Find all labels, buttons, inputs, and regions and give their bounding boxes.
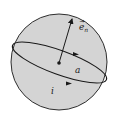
radius-label: a (75, 65, 80, 75)
diagram-canvas: en → a i (0, 0, 119, 126)
vector-arrow-mark: → (80, 17, 85, 24)
current-label: i (51, 86, 54, 96)
